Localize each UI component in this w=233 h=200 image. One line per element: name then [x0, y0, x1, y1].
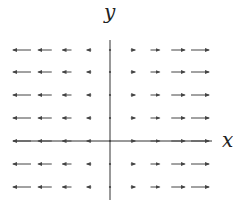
zero-vector-dot — [109, 140, 111, 142]
zero-vector-dot — [109, 71, 111, 73]
x-axis-label: x — [222, 128, 233, 152]
vector-field-diagram: x y — [0, 0, 233, 200]
zero-vector-dot — [109, 94, 111, 96]
zero-vector-dot — [109, 117, 111, 119]
y-axis-label: y — [103, 0, 116, 24]
vector-arrows — [13, 49, 209, 188]
zero-vector-dot — [109, 186, 111, 188]
zero-vector-dot — [109, 163, 111, 165]
zero-vector-dot — [109, 49, 111, 51]
